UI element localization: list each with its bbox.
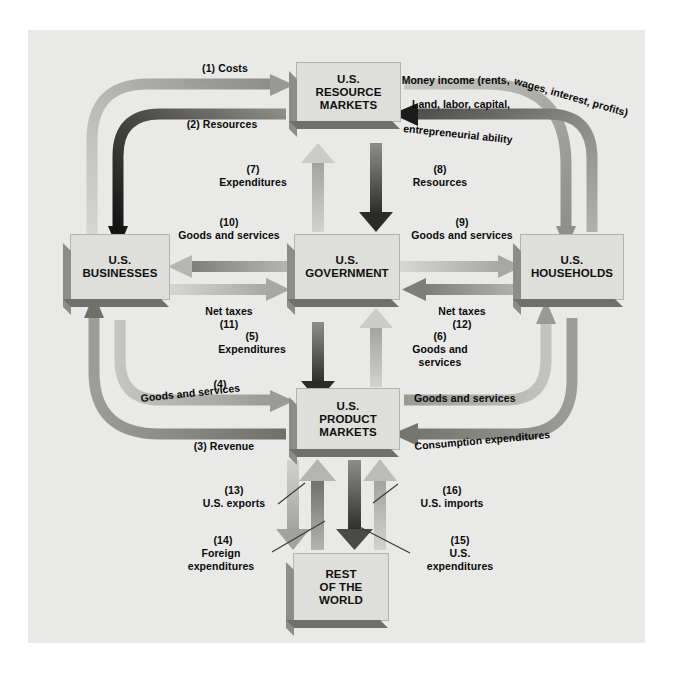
label-13-number: (13) (186, 484, 282, 497)
flow-arrow-15-us-expenditures (336, 460, 373, 550)
label-14-foreign-expenditures: Foreignexpenditures (162, 547, 280, 572)
label-8-resources-number: (8) (390, 163, 490, 176)
flow-arrow-8-resources (359, 143, 393, 232)
label-2-resources: (2) Resources (164, 118, 280, 131)
money-income-text-a: Money income (rents, (402, 74, 513, 86)
label-5-expenditures: Expenditures (198, 343, 306, 356)
label-9-number: (9) (402, 216, 522, 229)
label-5-number: (5) (198, 330, 306, 343)
label-11-number: (11) (168, 318, 290, 331)
flow-arrow-14-foreign-expenditures (299, 459, 336, 550)
label-7-expenditures-number: (7) (198, 163, 308, 176)
label-11-net-taxes: Net taxes (168, 305, 290, 318)
label-1-costs: (1) Costs (170, 62, 280, 75)
label-9-goods-and-services: Goods and services (394, 229, 530, 242)
node-households[interactable]: U.S.HOUSEHOLDS (520, 234, 624, 300)
node-rest-of-world[interactable]: RESTOF THEWORLD (293, 553, 389, 621)
label-15-number: (15) (404, 534, 516, 547)
label-12-number: (12) (402, 318, 522, 331)
node-government[interactable]: U.S.GOVERNMENT (294, 234, 400, 300)
label-16-us-imports: U.S. imports (400, 497, 504, 510)
label-15-us-expenditures: U.S.expenditures (400, 547, 520, 572)
node-businesses[interactable]: U.S.BUSINESSES (70, 234, 170, 300)
node-government-label: U.S.GOVERNMENT (305, 254, 388, 280)
label-8-resources: Resources (390, 176, 490, 189)
label-goods-and-services-households: Goods and services (414, 392, 574, 405)
label-14-number: (14) (168, 534, 278, 547)
label-13-us-exports: U.S. exports (186, 497, 282, 510)
label-7-expenditures: Expenditures (198, 176, 308, 189)
label-6-goods-and-services: Goods andservices (392, 343, 488, 368)
node-product-markets-label: U.S.PRODUCTMARKETS (319, 400, 377, 439)
flow-arrow-12-net-taxes (402, 278, 524, 301)
label-10-number: (10) (168, 216, 290, 229)
node-businesses-label: U.S.BUSINESSES (82, 254, 157, 280)
label-3-revenue: (3) Revenue (162, 440, 286, 453)
label-6-number: (6) (392, 330, 488, 343)
node-product-markets[interactable]: U.S.PRODUCTMARKETS (296, 388, 400, 450)
flow-arrow-16-us-imports (363, 459, 397, 550)
node-rest-of-world-label: RESTOF THEWORLD (319, 568, 363, 607)
flow-arrow-10-goods-and-services (168, 255, 290, 278)
flow-arrow-9-goods-and-services (400, 255, 522, 278)
label-money-income: Money income (rents, wages, interest, pr… (390, 62, 630, 98)
figure-canvas: U.S.RESOURCEMARKETS U.S.BUSINESSES U.S.G… (0, 0, 675, 673)
node-resource-markets[interactable]: U.S.RESOURCEMARKETS (296, 62, 401, 122)
flow-arrow-11-net-taxes (168, 278, 290, 301)
label-12-net-taxes: Net taxes (402, 305, 522, 318)
label-10-goods-and-services: Goods and services (160, 229, 298, 242)
label-land-labor-capital: Land, labor, capital, (412, 98, 510, 110)
label-16-number: (16) (402, 484, 502, 497)
node-households-label: U.S.HOUSEHOLDS (531, 254, 613, 280)
flow-arrow-6-goods-and-services (359, 308, 393, 387)
node-resource-markets-label: U.S.RESOURCEMARKETS (316, 73, 382, 112)
